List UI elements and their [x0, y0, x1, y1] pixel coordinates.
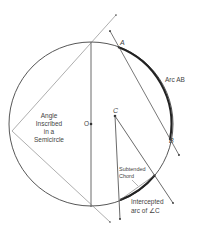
center-point-o — [90, 123, 93, 126]
label-point-c: C — [113, 107, 119, 114]
label-inscribed-3: in a — [44, 128, 55, 135]
circle-diagram: A B C O Arc AB Angle Inscribed in a Semi… — [0, 0, 199, 235]
label-intercepted-1: Intercepted — [131, 198, 164, 206]
label-arc-ab: Arc AB — [165, 76, 185, 83]
label-point-o: O — [84, 120, 89, 127]
label-intercepted-2: arc of ∠C — [131, 207, 160, 214]
label-point-b: B — [169, 137, 174, 144]
label-inscribed-4: Semicircle — [34, 136, 64, 143]
label-subtended-1: Subtended — [119, 166, 146, 172]
inscribed-angle-lower-ray — [12, 131, 110, 222]
label-point-a: A — [119, 39, 125, 46]
subtended-chord-pointer — [132, 180, 138, 186]
label-inscribed-1: Angle — [41, 112, 58, 120]
label-subtended-2: Chord — [119, 173, 134, 179]
inscribed-angle-upper-ray — [12, 15, 116, 131]
label-inscribed-2: Inscribed — [36, 120, 63, 127]
